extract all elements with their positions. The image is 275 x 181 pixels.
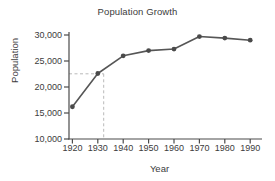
x-axis-title: Year bbox=[62, 163, 257, 174]
data-markers bbox=[70, 34, 253, 109]
y-tick-label-25000: 25,000 bbox=[18, 56, 62, 66]
data-point bbox=[146, 48, 151, 53]
data-point bbox=[248, 38, 253, 43]
data-point bbox=[70, 104, 75, 109]
axis-lines bbox=[68, 32, 262, 140]
data-point bbox=[172, 47, 177, 52]
data-point bbox=[121, 53, 126, 58]
y-tick-label-30000: 30,000 bbox=[18, 30, 62, 40]
population-growth-chart: Population Growth Population bbox=[0, 0, 275, 181]
y-axis-ticks bbox=[64, 35, 69, 139]
x-tick-label-1990: 1990 bbox=[233, 143, 267, 153]
y-tick-label-15000: 15,000 bbox=[18, 108, 62, 118]
data-point bbox=[222, 36, 227, 41]
y-tick-label-20000: 20,000 bbox=[18, 82, 62, 92]
data-point bbox=[95, 71, 100, 76]
data-point bbox=[197, 34, 202, 39]
